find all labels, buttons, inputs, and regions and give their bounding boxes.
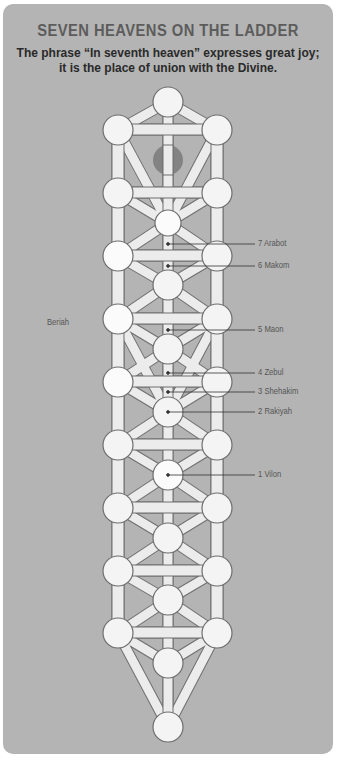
heaven-label-2: 2 Rakiyah bbox=[258, 406, 292, 416]
heaven-label-4: 4 Zebul bbox=[258, 367, 284, 377]
heaven-label-1: 1 Vilon bbox=[258, 469, 281, 479]
tree-of-life-ladder bbox=[0, 0, 344, 763]
world-label-beriah: Beriah bbox=[47, 317, 69, 327]
heaven-label-7: 7 Arabot bbox=[258, 238, 287, 248]
heaven-label-3: 3 Shehakim bbox=[258, 386, 298, 396]
heaven-label-6: 6 Makom bbox=[258, 260, 289, 270]
heaven-label-5: 5 Maon bbox=[258, 324, 284, 334]
